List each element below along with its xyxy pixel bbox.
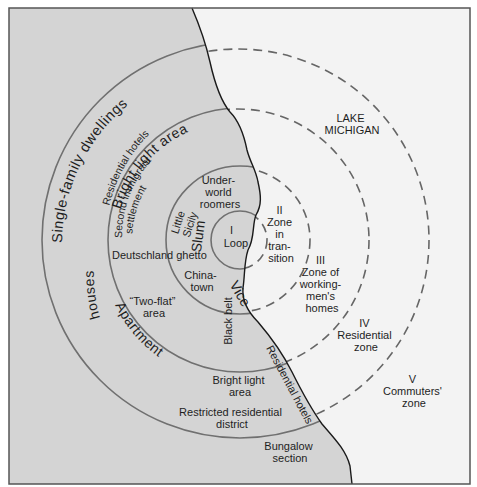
- concentric-zone-diagram: LAKE MICHIGAN I Loop II Zone in tran- si…: [0, 0, 477, 487]
- underworld-roomers-label: Under- world roomers: [200, 174, 241, 210]
- black-belt-label: Black belt: [222, 297, 234, 345]
- deutschland-ghetto-label: Deutschland ghetto: [112, 249, 207, 261]
